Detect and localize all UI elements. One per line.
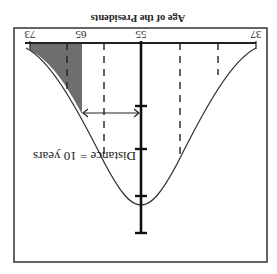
tick-label-73: 73 (24, 29, 36, 41)
tick-label-37: 37 (250, 29, 262, 41)
chart-stage: 37 55 65 73 Distance = 10 years Age of t… (0, 0, 277, 274)
normal-curve-chart: 37 55 65 73 Distance = 10 years Age of t… (0, 0, 277, 274)
tick-label-55: 55 (135, 29, 147, 41)
chart-title: Age of the Presidents (91, 13, 186, 24)
distance-annotation: Distance = 10 years (33, 149, 136, 164)
tick-label-65: 65 (75, 29, 87, 41)
